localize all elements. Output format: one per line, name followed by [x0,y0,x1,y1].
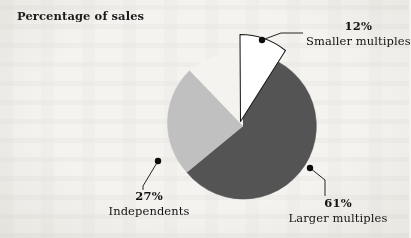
label-independents-name: Independents [99,204,199,218]
leader-dot-smaller-multiples [259,37,265,43]
label-larger-multiples-name: Larger multiples [278,211,398,225]
label-smaller-multiples: 12% Smaller multiples [306,19,411,48]
leader-dot-larger-multiples [307,165,313,171]
label-smaller-multiples-percent: 12% [306,19,411,33]
label-smaller-multiples-name: Smaller multiples [306,34,411,48]
label-independents-percent: 27% [99,189,199,203]
label-independents: 27% Independents [99,189,199,218]
leader-dot-independents [155,158,161,164]
label-larger-multiples-percent: 61% [278,196,398,210]
leader-line-smaller-multiples [262,33,303,40]
label-larger-multiples: 61% Larger multiples [278,196,398,225]
leader-line-independents [143,161,158,190]
leader-line-larger-multiples [310,168,325,196]
